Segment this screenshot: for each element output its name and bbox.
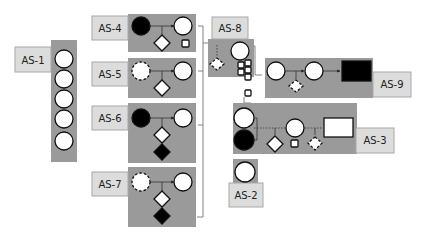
group-as8[interactable]: AS-8 — [208, 17, 254, 96]
as2-label: AS-2 — [234, 190, 257, 201]
as1-node-3[interactable] — [55, 90, 73, 108]
as8-small-square-1[interactable] — [238, 62, 244, 68]
group-as6[interactable]: AS-6 — [92, 103, 196, 163]
as8-small-square-3[interactable] — [238, 69, 244, 75]
as1-node-1[interactable] — [55, 50, 73, 68]
as2-circle[interactable] — [235, 162, 255, 182]
as3-circle-2[interactable] — [286, 119, 304, 137]
as4-small-square[interactable] — [182, 40, 189, 47]
group-as3[interactable]: AS-3 — [233, 103, 394, 154]
as9-label: AS-9 — [380, 79, 403, 90]
as1-node-2[interactable] — [55, 70, 73, 88]
group-as2[interactable]: AS-2 — [229, 159, 263, 207]
as4-filled-circle[interactable] — [132, 17, 150, 35]
as8-small-square-4[interactable] — [245, 67, 251, 73]
as7-label: AS-7 — [98, 179, 121, 190]
as1-node-4[interactable] — [55, 110, 73, 128]
as8-small-square-5[interactable] — [245, 74, 251, 80]
as3-small-square[interactable] — [291, 140, 298, 147]
as9-filled-rectangle[interactable] — [342, 61, 371, 81]
as8-to-as3-connector — [244, 97, 251, 103]
as3-rectangle[interactable] — [324, 118, 353, 137]
as8-circle[interactable] — [231, 42, 249, 60]
as5-label: AS-5 — [98, 69, 121, 80]
group-as9[interactable]: AS-9 — [265, 58, 411, 98]
as6-circle[interactable] — [174, 109, 192, 127]
as4-circle[interactable] — [174, 17, 192, 35]
pedigree-diagram: AS-1 AS-4 AS-5 AS-6 — [0, 0, 427, 238]
as7-circle[interactable] — [174, 173, 192, 191]
as3-label: AS-3 — [363, 135, 386, 146]
group-as7[interactable]: AS-7 — [92, 167, 196, 227]
as4-label: AS-4 — [98, 23, 121, 34]
as9-circle-2[interactable] — [305, 62, 323, 80]
as8-label: AS-8 — [218, 23, 241, 34]
as8-small-square-6[interactable] — [245, 90, 251, 96]
as3-circle-1[interactable] — [234, 108, 254, 128]
as7-dashed-circle[interactable] — [132, 173, 150, 191]
as6-filled-circle[interactable] — [132, 109, 150, 127]
trunk-connector — [197, 26, 203, 217]
group-as4[interactable]: AS-4 — [92, 14, 196, 52]
as9-circle-1[interactable] — [267, 62, 285, 80]
as5-dashed-circle[interactable] — [132, 62, 150, 80]
as3-filled-circle[interactable] — [234, 130, 254, 150]
as8-small-square-2[interactable] — [245, 60, 251, 66]
as5-circle[interactable] — [174, 62, 192, 80]
group-as1[interactable]: AS-1 — [15, 40, 77, 162]
as6-label: AS-6 — [98, 113, 121, 124]
group-as5[interactable]: AS-5 — [92, 58, 196, 98]
as1-node-5[interactable] — [55, 132, 73, 150]
as1-label: AS-1 — [21, 55, 44, 66]
